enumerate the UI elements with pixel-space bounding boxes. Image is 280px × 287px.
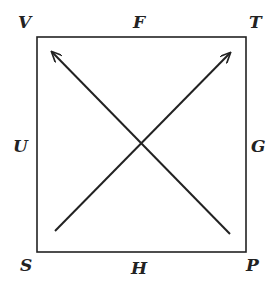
label-p: P <box>246 257 259 274</box>
label-f: F <box>133 14 145 31</box>
label-s: S <box>20 257 32 274</box>
diagram-canvas <box>0 0 280 287</box>
label-t: T <box>249 14 262 31</box>
arrow-s-to-t <box>55 53 230 231</box>
label-u: U <box>13 138 28 155</box>
label-g: G <box>251 138 266 155</box>
label-h: H <box>131 260 147 277</box>
label-v: V <box>18 14 31 31</box>
